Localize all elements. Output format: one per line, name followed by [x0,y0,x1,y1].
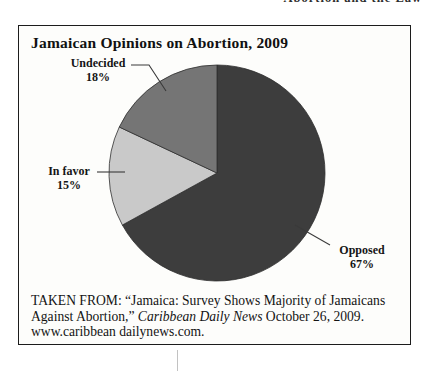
figure-box: Jamaican Opinions on Abortion, 2009 Unde… [18,25,411,345]
callout-opposed: Opposed 67% [322,243,402,271]
callout-undecided: Undecided 18% [59,56,137,84]
slice-label-opposed: Opposed [322,243,402,257]
callout-in-favor: In favor 15% [29,164,109,192]
running-header-cutoff: Abortion and the Law [272,0,422,7]
running-header-text: Abortion and the Law [272,0,422,6]
book-page: Abortion and the Law Jamaican Opinions o… [0,0,426,371]
slice-label-undecided: Undecided [59,56,137,70]
page-fold-tick [177,350,178,371]
caption-source-italic: Caribbean Daily News [138,309,263,324]
slice-pct-undecided: 18% [59,70,137,84]
chart-title: Jamaican Opinions on Abortion, 2009 [31,34,288,52]
pie-chart [107,63,327,283]
pie-svg [107,63,327,283]
slice-label-in-favor: In favor [29,164,109,178]
slice-pct-opposed: 67% [322,257,402,271]
slice-pct-in-favor: 15% [29,178,109,192]
figure-caption: TAKEN FROM: “Jamaica: Survey Shows Major… [31,293,407,340]
